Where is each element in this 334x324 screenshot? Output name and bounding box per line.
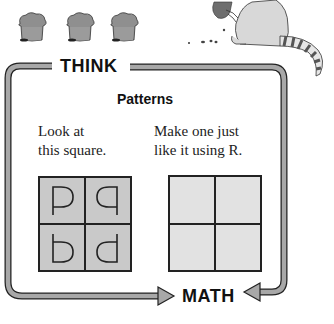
pattern-cell bbox=[39, 224, 85, 271]
think-label: THINK bbox=[60, 56, 118, 77]
answer-cell[interactable] bbox=[215, 224, 261, 272]
mirrored-r-bottom-right-icon bbox=[91, 230, 125, 266]
think-math-frame bbox=[0, 0, 334, 324]
left-instruction-line1: Look at bbox=[38, 122, 148, 141]
left-instruction-line2: this square. bbox=[38, 141, 148, 160]
pattern-cell bbox=[85, 177, 131, 224]
pattern-cell bbox=[39, 177, 85, 224]
math-label: MATH bbox=[182, 286, 235, 307]
arrow-right-icon bbox=[158, 287, 174, 305]
answer-cell[interactable] bbox=[215, 176, 261, 224]
section-title: Patterns bbox=[0, 91, 290, 107]
left-instruction: Look at this square. bbox=[38, 122, 148, 160]
mirrored-r-top-right-icon bbox=[91, 183, 125, 219]
example-pattern-square bbox=[38, 176, 132, 272]
pattern-cell bbox=[85, 224, 131, 271]
mirrored-r-top-left-icon bbox=[45, 183, 79, 219]
right-instruction-line1: Make one just bbox=[154, 122, 284, 141]
answer-pattern-square[interactable] bbox=[168, 175, 262, 272]
arrow-left-icon bbox=[244, 283, 260, 301]
right-instruction: Make one just like it using R. bbox=[154, 122, 284, 160]
answer-cell[interactable] bbox=[169, 224, 215, 272]
mirrored-r-bottom-left-icon bbox=[45, 230, 79, 266]
right-instruction-line2: like it using R. bbox=[154, 141, 284, 160]
answer-cell[interactable] bbox=[169, 176, 215, 224]
